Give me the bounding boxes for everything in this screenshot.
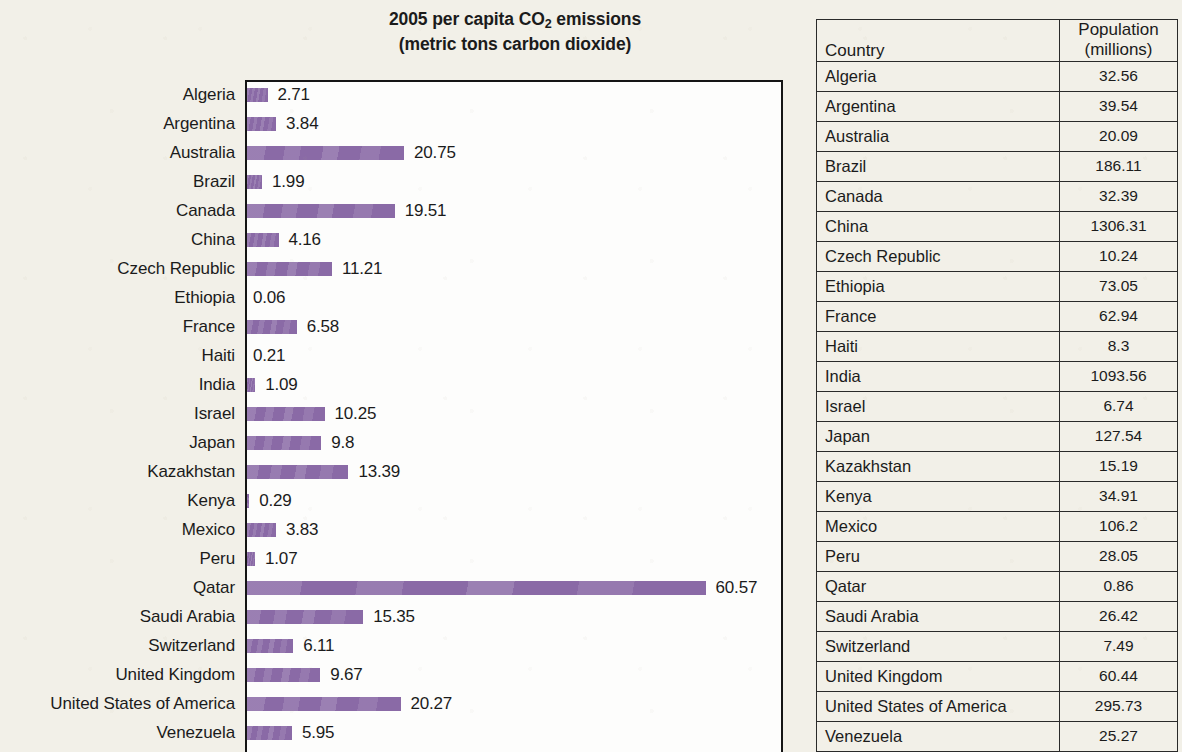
bar-with-value: 9.8 <box>247 436 354 450</box>
bar-category-label: Ethiopia <box>174 288 235 308</box>
cell-country: Czech Republic <box>817 241 1060 271</box>
bar-category-label: Israel <box>194 404 235 424</box>
bar-value-label: 13.39 <box>358 462 400 482</box>
bar-with-value: 1.99 <box>247 175 304 189</box>
bar-row: Kenya0.29 <box>0 486 800 515</box>
bar-row: Kazakhstan13.39 <box>0 457 800 486</box>
bar-category-label: Japan <box>189 433 235 453</box>
cell-population: 295.73 <box>1060 691 1178 721</box>
cell-population: 1093.56 <box>1060 361 1178 391</box>
table-row: Australia20.09 <box>817 121 1178 151</box>
cell-country: Mexico <box>817 511 1060 541</box>
bar-category-label: Qatar <box>193 578 235 598</box>
table-row: Kenya34.91 <box>817 481 1178 511</box>
bar-with-value: 0.21 <box>247 349 285 363</box>
bar <box>247 465 348 479</box>
bar <box>247 610 363 624</box>
bar-category-label: Venezuela <box>156 723 235 743</box>
bar-value-label: 10.25 <box>335 404 377 424</box>
bar-with-value: 1.07 <box>247 552 297 566</box>
bar-value-label: 5.95 <box>302 723 334 743</box>
bar <box>247 233 279 247</box>
bar <box>247 320 297 334</box>
bar-category-label: China <box>191 230 235 250</box>
bar <box>247 88 268 102</box>
cell-country: Australia <box>817 121 1060 151</box>
table-row: Saudi Arabia26.42 <box>817 601 1178 631</box>
bar <box>247 668 320 682</box>
bar-with-value: 20.75 <box>247 146 456 160</box>
chart-title: 2005 per capita CO2 emissions (metric to… <box>245 8 785 55</box>
cell-population: 127.54 <box>1060 421 1178 451</box>
table-row: Algeria32.56 <box>817 61 1178 91</box>
bar-category-label: Kenya <box>187 491 235 511</box>
cell-population: 10.24 <box>1060 241 1178 271</box>
bar-row: United States of America20.27 <box>0 689 800 718</box>
bar-category-label: United Kingdom <box>115 665 235 685</box>
table-row: Qatar0.86 <box>817 571 1178 601</box>
bar <box>247 262 332 276</box>
bar <box>247 378 255 392</box>
cell-country: Venezuela <box>817 721 1060 751</box>
cell-country: India <box>817 361 1060 391</box>
bar-value-label: 4.16 <box>289 230 321 250</box>
bar-value-label: 3.83 <box>286 520 318 540</box>
bar-value-label: 20.27 <box>411 694 453 714</box>
cell-country: Peru <box>817 541 1060 571</box>
table-row: United States of America295.73 <box>817 691 1178 721</box>
cell-country: Saudi Arabia <box>817 601 1060 631</box>
bar <box>247 407 325 421</box>
table-header-row: Country Population (millions) <box>817 20 1178 62</box>
table-row: Israel6.74 <box>817 391 1178 421</box>
table-row: Peru28.05 <box>817 541 1178 571</box>
cell-country: China <box>817 211 1060 241</box>
bar <box>247 117 276 131</box>
bar-category-label: Czech Republic <box>117 259 235 279</box>
bar-value-label: 19.51 <box>405 201 447 221</box>
bar-value-label: 0.06 <box>253 288 285 308</box>
bar <box>247 639 293 653</box>
bar-with-value: 9.67 <box>247 668 362 682</box>
bar-value-label: 1.99 <box>272 172 304 192</box>
bar-category-label: Canada <box>176 201 235 221</box>
bar <box>247 726 292 740</box>
bar-category-label: United States of America <box>50 694 235 714</box>
table-row: Ethiopia73.05 <box>817 271 1178 301</box>
cell-country: United Kingdom <box>817 661 1060 691</box>
bar-row: France6.58 <box>0 312 800 341</box>
bar-with-value: 6.11 <box>247 639 334 653</box>
chart-subtitle: (metric tons carbon dioxide) <box>245 33 785 55</box>
bar-category-label: Algeria <box>183 85 235 105</box>
bar-category-label: Haiti <box>201 346 235 366</box>
table-row: Czech Republic10.24 <box>817 241 1178 271</box>
bar-with-value: 3.83 <box>247 523 318 537</box>
bar-row: Canada19.51 <box>0 196 800 225</box>
bar-value-label: 60.57 <box>716 578 758 598</box>
population-table-panel: Country Population (millions) Algeria32.… <box>816 19 1182 746</box>
table-row: Switzerland7.49 <box>817 631 1178 661</box>
bar-row: Argentina3.84 <box>0 109 800 138</box>
table-row: China1306.31 <box>817 211 1178 241</box>
bar-category-label: Switzerland <box>148 636 235 656</box>
cell-country: France <box>817 301 1060 331</box>
cell-country: Haiti <box>817 331 1060 361</box>
bar-value-label: 2.71 <box>278 85 310 105</box>
bar-with-value: 2.71 <box>247 88 310 102</box>
bar <box>247 697 401 711</box>
bar-row: Mexico3.83 <box>0 515 800 544</box>
bar-category-label: India <box>199 375 235 395</box>
cell-population: 15.19 <box>1060 451 1178 481</box>
cell-country: Kenya <box>817 481 1060 511</box>
column-header-country: Country <box>817 20 1060 62</box>
bar-with-value: 20.27 <box>247 697 452 711</box>
bar-category-label: Argentina <box>163 114 235 134</box>
bar-value-label: 15.35 <box>373 607 415 627</box>
bar-category-label: Peru <box>199 549 235 569</box>
table-row: Haiti8.3 <box>817 331 1178 361</box>
table-row: Canada32.39 <box>817 181 1178 211</box>
bar-row: Qatar60.57 <box>0 573 800 602</box>
bar <box>247 436 321 450</box>
chart-title-suffix: emissions <box>552 9 641 29</box>
bar-rows-container: Algeria2.71Argentina3.84Australia20.75Br… <box>0 80 800 746</box>
cell-country: Qatar <box>817 571 1060 601</box>
